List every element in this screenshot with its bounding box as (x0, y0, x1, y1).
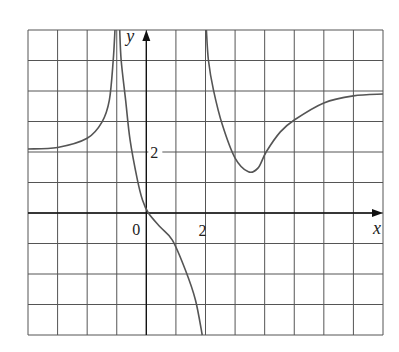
x-tick-label-2: 2 (199, 222, 207, 239)
y-tick-label-2: 2 (150, 144, 158, 161)
y-axis-label: y (124, 26, 134, 46)
function-graph: x y 0 2 2 (0, 0, 399, 352)
y-axis-arrow-icon (142, 30, 150, 41)
origin-label: 0 (132, 221, 140, 238)
grid-lines (28, 30, 383, 335)
x-axis-arrow-icon (372, 209, 383, 217)
x-axis-label: x (372, 218, 381, 238)
curve-left-branch (28, 30, 115, 149)
